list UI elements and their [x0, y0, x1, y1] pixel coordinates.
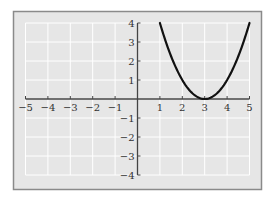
x-tick-label: −4 [41, 102, 56, 113]
y-tick-label: −3 [120, 151, 135, 162]
y-tick-label: 1 [128, 75, 134, 86]
x-tick-label: −3 [63, 102, 78, 113]
x-tick-label: −5 [18, 102, 33, 113]
x-tick-label: 5 [246, 102, 252, 113]
y-tick-label: −2 [120, 132, 135, 143]
x-tick-label: 3 [202, 102, 208, 113]
y-tick-label: 4 [128, 18, 134, 29]
y-tick-label: −1 [120, 113, 135, 124]
x-tick-label: 1 [157, 102, 163, 113]
y-tick-label: 3 [128, 37, 134, 48]
x-tick-label: −2 [85, 102, 100, 113]
x-tick-label: 4 [224, 102, 230, 113]
y-tick-label: −4 [120, 170, 135, 181]
parabola-chart: −5−4−3−2−112345 −4−3−2−11234 [0, 0, 270, 197]
x-tick-label: 2 [179, 102, 185, 113]
y-tick-label: 2 [128, 56, 134, 67]
x-tick-label: −1 [108, 102, 123, 113]
